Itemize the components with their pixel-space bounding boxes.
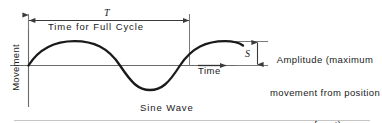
period-text-label: Time for Full Cycle [48, 22, 144, 33]
amplitude-description-line-1: Amplitude (maximum [270, 55, 380, 66]
amplitude-description-line-2: movement from position [270, 88, 380, 99]
x-axis-label: Time [198, 66, 221, 77]
sine-wave-figure: T Time for Full Cycle Movement Sine Wave… [0, 0, 382, 123]
amplitude-symbol-label: S [245, 48, 250, 60]
y-axis-label: Movement [11, 38, 22, 96]
amplitude-description: Amplitude (maximum movement from positio… [270, 33, 380, 123]
period-symbol-label: T [104, 7, 110, 19]
amplitude-description-line-3: of rest) [270, 120, 380, 123]
curve-name-label: Sine Wave [140, 103, 194, 114]
